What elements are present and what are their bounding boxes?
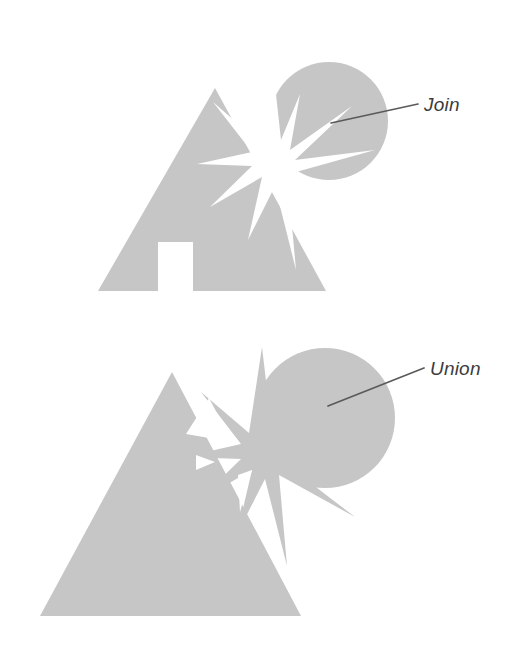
join-circle-shape	[270, 62, 388, 180]
union-figure: Union	[40, 347, 481, 616]
join-figure: Join	[98, 62, 460, 291]
join-shape-group	[98, 62, 388, 291]
union-label: Union	[430, 358, 481, 379]
diagram-canvas: Join Union	[0, 0, 513, 653]
union-shape-group	[40, 347, 395, 616]
join-label: Join	[423, 94, 460, 115]
